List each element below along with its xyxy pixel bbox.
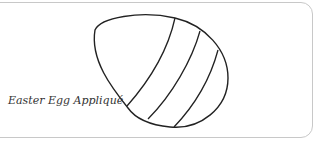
egg-outline — [94, 15, 228, 127]
egg-stripe-1 — [127, 18, 175, 106]
egg-stripe-3 — [174, 50, 218, 127]
caption-title: Easter Egg Appliqué — [8, 94, 123, 107]
easter-egg-outline-icon — [0, 0, 317, 143]
